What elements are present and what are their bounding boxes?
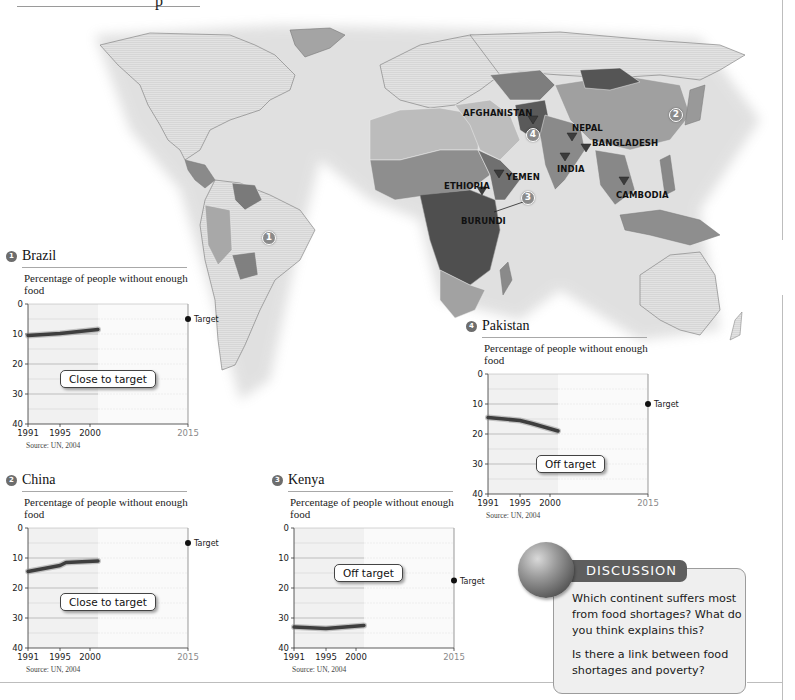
discussion-box: Which continent suffers most from food s…	[553, 568, 746, 694]
svg-text:10: 10	[472, 399, 483, 409]
svg-text:1995: 1995	[49, 652, 71, 662]
svg-text:30: 30	[472, 459, 483, 469]
discussion-title: DISCUSSION	[566, 560, 687, 582]
svg-text:1991: 1991	[283, 652, 305, 662]
svg-text:30: 30	[12, 389, 23, 399]
chart-panel-kenya: 3 Kenya Percentage of people without eno…	[272, 472, 472, 677]
chart-panel-brazil: 1 Brazil Percentage of people without en…	[6, 248, 206, 453]
status-badge: Off target	[536, 455, 605, 473]
svg-text:Target: Target	[459, 577, 485, 586]
country-label: CAMBODIA	[616, 190, 669, 200]
discussion-question-1: Which continent suffers most from food s…	[572, 591, 742, 639]
svg-text:1991: 1991	[17, 652, 39, 662]
status-badge: Close to target	[60, 370, 156, 388]
svg-text:30: 30	[12, 613, 23, 623]
discussion-question-2: Is there a link between food shortages a…	[572, 647, 742, 679]
country-label: BANGLADESH	[592, 138, 658, 148]
svg-text:10: 10	[12, 553, 23, 563]
country-label: INDIA	[557, 164, 585, 174]
svg-text:0: 0	[478, 369, 483, 379]
svg-text:Target: Target	[653, 400, 679, 409]
svg-text:20: 20	[12, 359, 23, 369]
svg-text:2015: 2015	[637, 498, 659, 508]
svg-text:30: 30	[278, 613, 289, 623]
country-label: ETHIOPIA	[444, 181, 490, 191]
central-africa	[420, 190, 500, 285]
svg-text:2015: 2015	[177, 652, 199, 662]
svg-text:10: 10	[278, 553, 289, 563]
svg-text:20: 20	[472, 429, 483, 439]
country-label: NEPAL	[572, 123, 603, 133]
status-badge: Close to target	[60, 593, 156, 611]
svg-text:0: 0	[284, 523, 289, 533]
svg-text:0: 0	[18, 523, 23, 533]
svg-text:1995: 1995	[315, 652, 337, 662]
svg-text:10: 10	[12, 329, 23, 339]
status-badge: Off target	[334, 564, 403, 582]
chart-source: Source: UN, 2004	[292, 665, 346, 674]
svg-text:2000: 2000	[79, 428, 101, 438]
svg-text:2000: 2000	[345, 652, 367, 662]
country-label: AFGHANISTAN	[463, 108, 532, 118]
new-zealand	[730, 312, 742, 340]
svg-text:20: 20	[12, 583, 23, 593]
svg-text:2000: 2000	[79, 652, 101, 662]
svg-text:Target: Target	[193, 315, 219, 324]
svg-text:1995: 1995	[49, 428, 71, 438]
svg-text:2015: 2015	[177, 428, 199, 438]
chart-panel-china: 2 China Percentage of people without eno…	[6, 472, 206, 677]
svg-text:20: 20	[278, 583, 289, 593]
line-chart-china: 0102030401991199520002015Target	[6, 472, 206, 672]
line-chart-pakistan: 0102030401991199520002015Target	[466, 318, 666, 518]
country-label: BURUNDI	[461, 216, 506, 226]
chart-source: Source: UN, 2004	[486, 511, 540, 520]
svg-text:1991: 1991	[477, 498, 499, 508]
svg-text:2015: 2015	[443, 652, 465, 662]
svg-text:2000: 2000	[539, 498, 561, 508]
chart-source: Source: UN, 2004	[26, 665, 80, 674]
line-chart-brazil: 0102030401991199520002015Target	[6, 248, 206, 448]
chart-panel-pakistan: 4 Pakistan Percentage of people without …	[466, 318, 666, 523]
chart-source: Source: UN, 2004	[26, 441, 80, 450]
map-chart-marker: 4	[526, 128, 540, 142]
globe-icon	[518, 542, 574, 598]
svg-text:1991: 1991	[17, 428, 39, 438]
map-chart-marker: 1	[262, 231, 276, 245]
svg-text:1995: 1995	[509, 498, 531, 508]
svg-text:Target: Target	[193, 539, 219, 548]
svg-text:0: 0	[18, 299, 23, 309]
country-label: YEMEN	[506, 172, 540, 182]
map-chart-marker: 2	[669, 108, 683, 122]
map-chart-marker: 3	[521, 191, 535, 205]
